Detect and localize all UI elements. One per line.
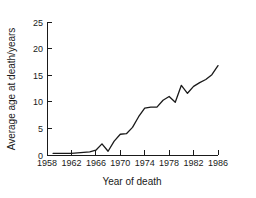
y-axis-ticks [47, 22, 52, 155]
data-series-line [53, 66, 218, 154]
x-tick-label-1986: 1986 [208, 158, 228, 168]
x-tick-label-1974: 1974 [135, 158, 155, 168]
x-tick-label-1978: 1978 [159, 158, 179, 168]
chart-figure: 25 20 15 10 5 0 1958 1962 1966 1970 1974… [0, 0, 256, 198]
x-axis-title: Year of death [102, 176, 161, 187]
y-tick-label-20: 20 [33, 44, 43, 54]
x-tick-label-1970: 1970 [110, 158, 130, 168]
y-axis-tick-labels: 25 20 15 10 5 0 [33, 18, 43, 161]
x-tick-label-1958: 1958 [37, 158, 57, 168]
x-axis-tick-labels: 1958 1962 1966 1970 1974 1978 1982 1986 [37, 158, 228, 168]
x-tick-label-1982: 1982 [184, 158, 204, 168]
y-axis-title: Average age at death/years [6, 28, 17, 151]
y-tick-label-10: 10 [33, 97, 43, 107]
x-tick-label-1962: 1962 [61, 158, 81, 168]
x-axis-ticks [47, 150, 218, 155]
y-tick-label-15: 15 [33, 71, 43, 81]
x-tick-label-1966: 1966 [86, 158, 106, 168]
y-tick-label-25: 25 [33, 18, 43, 28]
y-tick-label-5: 5 [38, 124, 43, 134]
line-chart: 25 20 15 10 5 0 1958 1962 1966 1970 1974… [0, 0, 256, 198]
